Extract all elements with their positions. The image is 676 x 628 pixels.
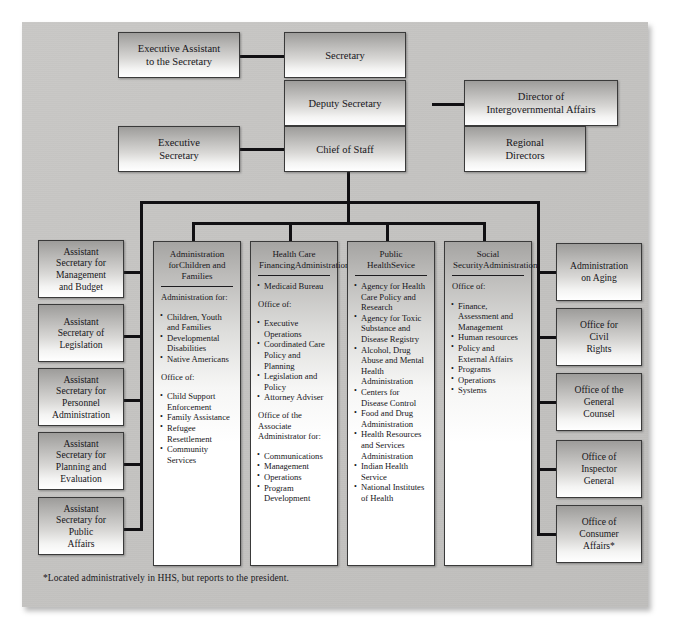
connector-left-stub-2 [122,335,143,338]
list-item[interactable]: National Institutes of Health [354,482,428,503]
main-column-2-title-line2: Administration [295,260,350,270]
list-item[interactable]: Executive Operations [257,318,331,339]
list-item[interactable]: Human resources [451,332,525,343]
node-secretary-label: Secretary [325,49,365,62]
node-executive-secretary[interactable]: Executive Secretary [118,126,240,172]
right-node-5-line-3: Affairs* [579,540,618,552]
right-node-5-line-1: Office of [579,516,618,528]
right-node-4[interactable]: Office ofInspectorGeneral [556,440,642,498]
main-column-2-group-2-list: Executive OperationsCoordinated Care Pol… [257,318,331,403]
list-item[interactable]: Operations [257,472,331,483]
main-column-4-title-line2: Administration [483,260,538,270]
list-item[interactable]: Native Americans [160,354,234,365]
right-node-3-line-2: General [575,396,624,408]
main-column-2[interactable]: Health Care FinancingAdministrationMedic… [250,241,338,566]
connector-col2-drop [289,222,292,242]
list-item[interactable]: Indian Health Service [354,461,428,482]
main-column-3-title: Public HealthSevice [354,249,428,275]
node-director-intergovernmental[interactable]: Director of Intergovernmental Affairs [464,80,618,126]
main-column-1-divider [161,286,233,287]
connector-outer-bus-left [140,201,143,531]
list-item[interactable]: Programs [451,364,525,375]
node-chief-of-staff-label: Chief of Staff [316,143,374,156]
list-item[interactable]: Health Resources and Services Administra… [354,429,428,461]
list-item[interactable]: Agency for Toxic Substance and Disease R… [354,313,428,345]
main-column-3[interactable]: Public HealthSeviceAgency for Health Car… [347,241,435,566]
right-node-5-line-2: Consumer [579,528,618,540]
list-item[interactable]: Agency for Health Care Policy and Resear… [354,281,428,313]
right-node-1-line-2: on Aging [570,272,628,284]
node-chief-of-staff[interactable]: Chief of Staff [284,126,406,172]
list-item[interactable]: Food and Drug Administration [354,408,428,429]
right-node-2-line-1: Office for [580,319,618,331]
main-column-4-divider [452,275,524,276]
node-director-intergov-line1: Director of [487,90,596,103]
list-item[interactable]: Communications [257,451,331,462]
list-item[interactable]: Coordinated Care Policy and Planning [257,339,331,371]
list-item[interactable]: Finance, Assessment and Management [451,301,525,333]
connector-chief-stem [347,170,350,222]
right-node-1[interactable]: Administrationon Aging [556,243,642,301]
list-item[interactable]: Program Development [257,483,331,504]
left-node-5[interactable]: AssistantSecretary forPublicAffairs [38,497,124,555]
node-executive-secretary-line1: Executive [158,136,200,149]
left-node-2[interactable]: AssistantSecretary ofLegislation [38,304,124,362]
list-item[interactable]: Management [257,461,331,472]
left-node-5-line-2: Secretary for [56,514,106,526]
node-regional-directors[interactable]: Regional Directors [464,126,586,172]
left-node-1[interactable]: AssistantSecretary forManagementand Budg… [38,240,124,298]
main-column-4-group-1-list: Finance, Assessment and ManagementHuman … [451,301,525,396]
connector-left-stub-1 [122,271,143,274]
left-node-3-line-4: Administration [52,409,110,421]
right-node-3-line-3: Counsel [575,408,624,420]
connector-col4-drop [483,222,486,242]
left-node-2-line-2: Secretary of [58,327,105,339]
main-column-4[interactable]: Social SecurityAdministrationOffice of:F… [444,241,532,566]
node-executive-assistant[interactable]: Executive Assistant to the Secretary [118,32,240,78]
list-item[interactable]: Operations [451,375,525,386]
connector-outer-bus [140,201,540,204]
connector-left-stub-4 [122,463,143,466]
node-deputy-secretary[interactable]: Deputy Secretary [284,80,406,126]
connector-right-stub-5 [537,533,558,536]
right-node-2-line-2: Civil [580,331,618,343]
left-node-1-line-1: Assistant [56,246,106,258]
node-regional-directors-line2: Directors [505,149,544,162]
left-node-4-line-1: Assistant [56,438,106,450]
chart-footnote: *Located administratively in HHS, but re… [43,572,289,584]
list-item[interactable]: Child Support Enforcement [160,391,234,412]
list-item[interactable]: Systems [451,385,525,396]
list-item[interactable]: Medicaid Bureau [257,281,331,292]
list-item[interactable]: Legislation and Policy [257,371,331,392]
left-node-4-line-3: Planning and [56,461,106,473]
list-item[interactable]: Policy and External Affairs [451,343,525,364]
list-item[interactable]: Developmental Disabilities [160,333,234,354]
list-item[interactable]: Community Services [160,444,234,465]
main-column-1-group-1-list: Children, Youth and FamiliesDevelopmenta… [160,312,234,365]
list-item[interactable]: Children, Youth and Families [160,312,234,333]
left-node-5-line-1: Assistant [56,503,106,515]
list-item[interactable]: Refugee Resettlement [160,423,234,444]
right-node-2[interactable]: Office forCivilRights [556,308,642,366]
main-column-2-group-1-list: Medicaid Bureau [257,281,331,292]
list-item[interactable]: Attorney Adviser [257,392,331,403]
left-node-4-line-2: Secretary for [56,449,106,461]
list-item[interactable]: Centers for Disease Control [354,387,428,408]
right-node-3[interactable]: Office of theGeneralCounsel [556,373,642,431]
connector-inner-bus [192,222,486,225]
left-node-4[interactable]: AssistantSecretary forPlanning andEvalua… [38,432,124,490]
list-item[interactable]: Family Assistance [160,412,234,423]
main-column-1[interactable]: Administration forChildren and FamiliesA… [153,241,241,566]
node-secretary[interactable]: Secretary [284,32,406,78]
left-node-1-line-2: Secretary for [56,257,106,269]
main-column-1-title-line2: Children and Families [179,260,226,281]
right-node-5[interactable]: Office ofConsumerAffairs* [556,505,642,563]
connector-right-stub-4 [537,468,558,471]
main-column-2-title: Health Care FinancingAdministration [257,249,331,275]
left-node-3[interactable]: AssistantSecretary forPersonnelAdministr… [38,368,124,426]
connector-right-stub-1 [537,271,558,274]
main-column-3-title-line2: Sevice [391,260,415,270]
left-node-5-line-4: Affairs [56,538,106,550]
right-node-4-line-3: General [581,475,617,487]
list-item[interactable]: Alcohol, Drug Abuse and Mental Health Ad… [354,345,428,387]
